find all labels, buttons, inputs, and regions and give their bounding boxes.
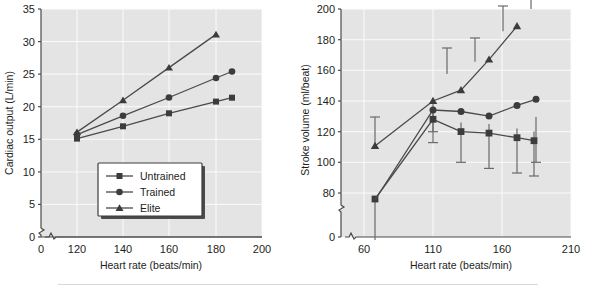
chart-panel-cardiac-output: 35 30 25 20 15 10 5 0 0 120 140 160 180 … xyxy=(0,0,297,287)
x-axis-title-right: Heart rate (beats/min) xyxy=(410,259,512,271)
y-tick-label: 10 xyxy=(23,166,35,178)
y-tick-label: 140 xyxy=(317,95,335,107)
y-tick-label: 35 xyxy=(23,3,35,15)
x-tick-label: 140 xyxy=(114,243,132,255)
circle-icon xyxy=(116,189,123,196)
legend-label-trained: Trained xyxy=(140,186,175,198)
x-tick-label: 160 xyxy=(493,243,511,255)
chart-legend[interactable]: Untrained Trained Elite xyxy=(98,163,205,219)
y-tick-label: 0 xyxy=(29,231,35,243)
x-tick-label: 60 xyxy=(358,243,370,255)
x-tick-label: 110 xyxy=(424,243,442,255)
y-tick-label: 200 xyxy=(317,3,335,15)
x-tick-label: 120 xyxy=(68,243,86,255)
chart-panel-stroke-volume: 200 180 160 140 120 100 80 0 60 110 160 … xyxy=(296,0,593,287)
y-tick-label: 5 xyxy=(29,198,35,210)
y-tick-label: 100 xyxy=(317,156,335,168)
square-icon xyxy=(117,173,123,179)
y-tick-label: 15 xyxy=(23,133,35,145)
x-tick-label: 210 xyxy=(562,243,580,255)
legend-label-elite: Elite xyxy=(140,202,161,214)
y-tick-label: 0 xyxy=(329,231,335,243)
legend-label-untrained: Untrained xyxy=(140,170,186,182)
y-tick-label: 120 xyxy=(317,126,335,138)
page-footer-rule xyxy=(58,284,538,285)
x-axis-title-left: Heart rate (beats/min) xyxy=(100,259,202,271)
y-tick-label: 160 xyxy=(317,64,335,76)
y-tick-label: 80 xyxy=(323,187,335,199)
x-tick-label: 0 xyxy=(38,243,44,255)
y-axis-title-left: Cardiac output (L/min) xyxy=(3,71,15,175)
x-tick-label: 180 xyxy=(207,243,225,255)
x-tick-label: 160 xyxy=(160,243,178,255)
y-tick-label: 180 xyxy=(317,34,335,46)
y-axis-title-right: Stroke volume (ml/beat) xyxy=(299,64,311,175)
y-tick-label: 25 xyxy=(23,68,35,80)
y-tick-label: 20 xyxy=(23,101,35,113)
figure-two-panel-charts: 35 30 25 20 15 10 5 0 0 120 140 160 180 … xyxy=(0,0,593,287)
x-tick-label: 200 xyxy=(253,243,271,255)
y-tick-label: 30 xyxy=(23,36,35,48)
